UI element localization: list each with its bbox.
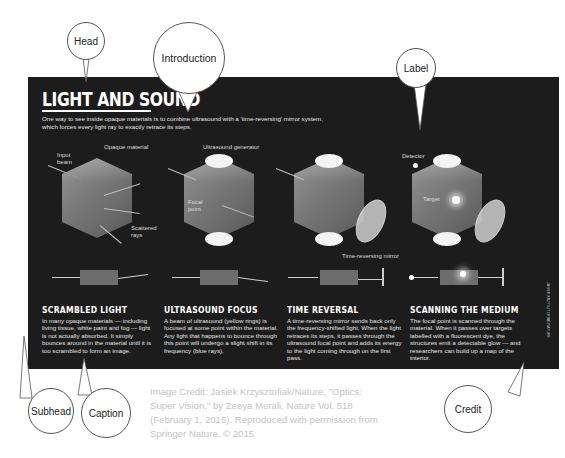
annotation-bubble-introduction: Introduction [153, 22, 225, 94]
annotation-credit-text: Credit [455, 404, 482, 415]
annotation-bubble-credit: Credit [444, 385, 492, 433]
annotation-bubble-subhead: Subhead [28, 388, 74, 434]
annotation-label-text: Label [404, 63, 428, 74]
annotation-bubble-caption: Caption [81, 388, 131, 438]
annotation-bubble-head: Head [67, 22, 105, 60]
subhead-bubble-tail [20, 336, 32, 398]
credit-bubble-tail [508, 362, 524, 396]
annotation-bubble-label: Label [396, 48, 436, 88]
annotation-subhead-text: Subhead [31, 406, 71, 417]
annotation-head-text: Head [74, 36, 98, 47]
annotation-introduction-text: Introduction [162, 52, 217, 64]
label-bubble-tail [414, 84, 426, 130]
annotation-caption-text: Caption [89, 408, 123, 419]
caption-bubble-tail [78, 358, 92, 395]
